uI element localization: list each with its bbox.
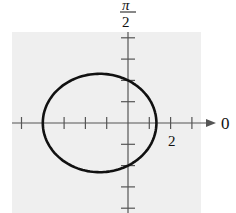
tick-label-2: 2 xyxy=(168,133,176,149)
polar-graph: 0 2 π 2 xyxy=(0,0,236,213)
polar-axis-label: 0 xyxy=(221,114,230,133)
pi-over-2-numerator: π xyxy=(122,0,130,13)
arrow-head-icon xyxy=(206,119,216,127)
polar-plot: 0 2 π 2 xyxy=(0,0,236,213)
pi-over-2-denominator: 2 xyxy=(122,14,130,30)
